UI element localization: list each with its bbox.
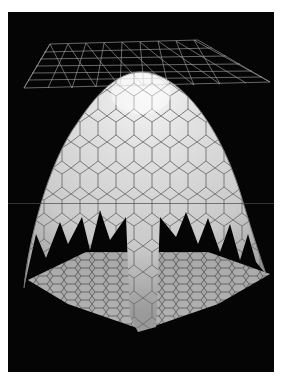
figure-illustration (8, 12, 274, 372)
scan-line (8, 203, 274, 204)
figure-panel (8, 12, 274, 372)
